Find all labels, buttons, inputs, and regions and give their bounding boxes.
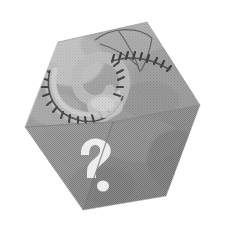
cube-svg <box>0 0 227 231</box>
cube-illustration: Isometric cube with dental arch image an… <box>0 0 227 231</box>
